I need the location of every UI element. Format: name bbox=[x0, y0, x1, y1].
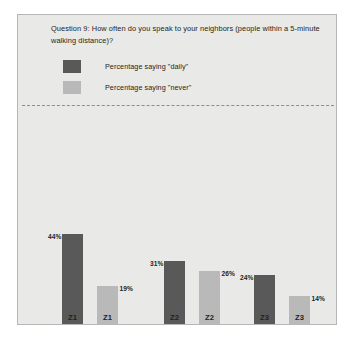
bar-group: Z231% bbox=[164, 261, 185, 325]
bar-z2-daily: Z2 bbox=[164, 261, 185, 325]
slide-panel: Question 9: How often do you speak to yo… bbox=[17, 14, 337, 325]
bar-z3-daily: Z3 bbox=[254, 275, 275, 325]
bar-category-label: Z2 bbox=[199, 313, 220, 322]
bar-value-label: 14% bbox=[312, 295, 325, 302]
bar-category-label: Z3 bbox=[254, 313, 275, 322]
bar-value-label: 44% bbox=[48, 233, 61, 240]
bar-value-label: 24% bbox=[240, 274, 253, 281]
bar-category-label: Z1 bbox=[97, 313, 118, 322]
bar-chart-plot-area: Z144%Z119%Z231%Z226%Z324%Z314% bbox=[18, 15, 336, 324]
bar-group: Z119% bbox=[97, 286, 118, 325]
bar-value-label: 31% bbox=[150, 260, 163, 267]
bar-group: Z226% bbox=[199, 271, 220, 325]
bar-category-label: Z1 bbox=[62, 313, 83, 322]
bar-category-label: Z3 bbox=[289, 313, 310, 322]
bar-z3-never: Z3 bbox=[289, 296, 310, 325]
bar-group: Z314% bbox=[289, 296, 310, 325]
bar-value-label: 19% bbox=[120, 285, 133, 292]
bar-z1-never: Z1 bbox=[97, 286, 118, 325]
bar-category-label: Z2 bbox=[164, 313, 185, 322]
bar-z1-daily: Z1 bbox=[62, 234, 83, 325]
bar-z2-never: Z2 bbox=[199, 271, 220, 325]
bar-value-label: 26% bbox=[222, 270, 235, 277]
bar-group: Z144% bbox=[62, 234, 83, 325]
bar-group: Z324% bbox=[254, 275, 275, 325]
